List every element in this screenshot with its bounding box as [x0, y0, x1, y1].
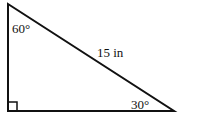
hypotenuse-label: 15 in [97, 45, 124, 60]
angle-label-60: 60° [12, 21, 30, 36]
triangle [8, 4, 174, 111]
angle-label-30: 30° [131, 97, 149, 112]
right-angle-marker [8, 102, 17, 111]
triangle-diagram: 60° 15 in 30° [0, 0, 209, 119]
